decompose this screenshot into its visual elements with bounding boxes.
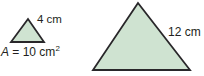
small-triangle-area-label: A = 10 cm2 xyxy=(1,46,60,58)
similar-triangles-figure: 4 cm A = 10 cm2 12 cm xyxy=(0,0,204,76)
large-triangle-side-label: 12 cm xyxy=(168,26,201,38)
area-variable: A xyxy=(1,45,9,59)
area-exponent: 2 xyxy=(55,44,59,53)
area-value: = 10 cm xyxy=(9,45,55,59)
small-triangle-side-label: 4 cm xyxy=(37,14,62,26)
